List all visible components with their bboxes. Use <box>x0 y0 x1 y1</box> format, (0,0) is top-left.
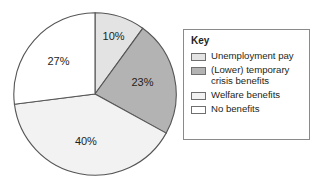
legend-item-label: Unemployment pay <box>211 50 294 61</box>
pie-slice-value-label: 23% <box>131 76 153 88</box>
legend-item-list: Unemployment pay(Lower) temporary crisis… <box>191 50 303 114</box>
legend-item-label: No benefits <box>211 103 260 114</box>
legend-swatch-icon <box>191 106 206 114</box>
pie-chart: 10%23%40%27% <box>13 12 177 176</box>
pie-slice-value-label: 40% <box>75 135 97 147</box>
legend-item: Unemployment pay <box>191 50 303 61</box>
legend-item-label: (Lower) temporary crisis benefits <box>211 64 289 86</box>
pie-slice-value-label: 10% <box>103 30 125 42</box>
pie-svg: 10%23%40%27% <box>13 12 177 176</box>
legend-item: No benefits <box>191 103 303 114</box>
legend-item: (Lower) temporary crisis benefits <box>191 64 303 86</box>
legend-swatch-icon <box>191 92 206 100</box>
pie-chart-figure: 10%23%40%27% Key Unemployment pay(Lower)… <box>0 0 321 186</box>
legend-title: Key <box>191 35 303 47</box>
pie-slice-value-label: 27% <box>47 55 69 67</box>
legend: Key Unemployment pay(Lower) temporary cr… <box>183 29 310 140</box>
legend-swatch-icon <box>191 67 206 75</box>
legend-item: Welfare benefits <box>191 89 303 100</box>
legend-item-label: Welfare benefits <box>211 89 280 100</box>
legend-swatch-icon <box>191 53 206 61</box>
pie-slice-group <box>14 13 176 175</box>
